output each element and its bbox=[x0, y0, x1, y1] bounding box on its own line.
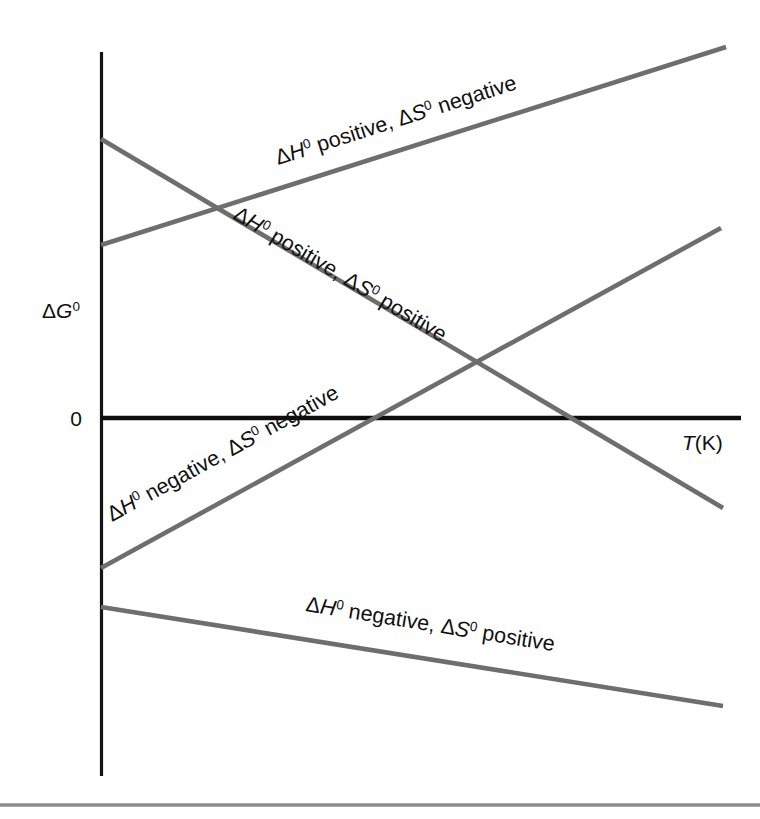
gibbs-free-energy-vs-temperature-chart: ΔG0 0 T(K) ΔH0 positive, ΔS0 negative ΔH… bbox=[0, 0, 760, 819]
y-axis-zero-tick-label: 0 bbox=[70, 407, 82, 430]
x-axis-title: T(K) bbox=[682, 431, 723, 454]
thermodynamics-gibbs-free-energy-figure: ΔG0 0 T(K) ΔH0 positive, ΔS0 negative ΔH… bbox=[0, 0, 760, 819]
